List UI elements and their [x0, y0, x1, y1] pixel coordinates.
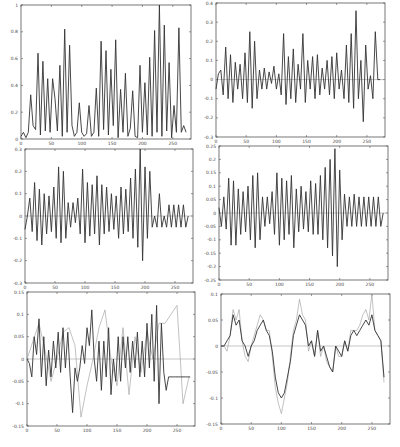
x-tick-label: 100: [81, 285, 90, 290]
figure-canvas: 05010015020025000.20.40.60.8105010015020…: [0, 0, 400, 447]
x-tick-label: 0: [218, 282, 221, 287]
y-tick-label: 0.1: [211, 292, 218, 297]
y-tick-label: 0: [213, 211, 216, 216]
y-tick-label: 0.2: [15, 169, 22, 174]
y-tick-label: 0.1: [206, 58, 213, 63]
x-tick-label: 250: [168, 141, 177, 146]
x-tick-label: 150: [307, 426, 316, 431]
y-tick-label: 0.8: [11, 29, 18, 34]
panel-bottom-right: 050100150200250-0.15-0.1-0.0500.050.1: [206, 292, 390, 432]
x-tick-label: 50: [48, 141, 54, 146]
y-tick-label: 0: [210, 77, 213, 82]
y-tick-label: 0: [19, 214, 22, 219]
y-tick-label: -0.2: [207, 264, 216, 269]
panel-top-right: 050100150200250-0.3-0.2-0.100.10.20.30.4: [204, 1, 385, 145]
x-tick-label: 50: [243, 139, 249, 144]
series-signal-line: [25, 149, 188, 261]
y-tick-label: 0.3: [206, 20, 213, 25]
y-tick-label: 0.05: [14, 334, 24, 339]
y-tick-label: -0.05: [206, 370, 218, 375]
y-tick-label: -0.3: [204, 135, 213, 140]
y-tick-label: -0.15: [206, 422, 218, 427]
x-tick-label: 100: [83, 428, 92, 433]
x-tick-label: 200: [335, 282, 344, 287]
x-tick-label: 0: [26, 428, 29, 433]
x-tick-label: 0: [20, 141, 23, 146]
y-tick-label: -0.15: [204, 251, 216, 256]
y-tick-label: 0.05: [208, 318, 218, 323]
y-tick-label: 0.1: [209, 184, 216, 189]
panel-top-left: 05010015020025000.20.40.60.81: [11, 3, 191, 147]
y-tick-label: 0.1: [17, 312, 24, 317]
y-tick-label: 0.4: [11, 83, 18, 88]
y-tick-label: 0.15: [14, 290, 24, 295]
y-tick-label: 0.2: [209, 157, 216, 162]
y-tick-label: 0.3: [15, 147, 22, 152]
x-tick-label: 100: [77, 141, 86, 146]
y-tick-label: -0.25: [204, 278, 216, 283]
y-tick-label: 0.15: [206, 170, 216, 175]
panel-middle-right: 050100150200250-0.25-0.2-0.15-0.1-0.0500…: [204, 144, 388, 288]
y-tick-label: 0.2: [206, 39, 213, 44]
y-tick-label: -0.1: [209, 396, 218, 401]
x-tick-label: 250: [171, 285, 180, 290]
y-tick-label: 0: [21, 357, 24, 362]
x-tick-label: 200: [337, 426, 346, 431]
y-tick-label: -0.05: [12, 379, 24, 384]
x-tick-label: 150: [111, 285, 120, 290]
x-tick-label: 0: [220, 426, 223, 431]
x-tick-label: 150: [113, 428, 122, 433]
y-tick-label: 0: [215, 344, 218, 349]
x-tick-label: 50: [248, 426, 254, 431]
x-tick-label: 100: [272, 139, 281, 144]
y-tick-label: 0.2: [11, 110, 18, 115]
x-tick-label: 50: [246, 282, 252, 287]
series-signal-line: [221, 315, 384, 398]
x-tick-label: 250: [173, 428, 182, 433]
x-tick-label: 150: [302, 139, 311, 144]
y-tick-label: -0.2: [13, 258, 22, 263]
series-signal-line: [219, 149, 383, 267]
y-tick-label: -0.1: [13, 236, 22, 241]
panel-middle-left: 050100150200250-0.3-0.2-0.100.10.20.3: [13, 147, 193, 291]
y-tick-label: 0.25: [206, 144, 216, 149]
series-reference-line: [27, 305, 189, 417]
y-tick-label: -0.05: [204, 224, 216, 229]
x-tick-label: 200: [138, 141, 147, 146]
series-signal-line: [21, 5, 186, 138]
x-tick-label: 100: [277, 426, 286, 431]
y-tick-label: -0.3: [13, 281, 22, 286]
x-tick-label: 150: [305, 282, 314, 287]
series-reference-line: [221, 294, 384, 414]
x-tick-label: 0: [24, 285, 27, 290]
x-tick-label: 100: [275, 282, 284, 287]
series-signal-line: [216, 11, 380, 122]
y-tick-label: 0: [15, 137, 18, 142]
x-tick-label: 250: [368, 426, 377, 431]
x-tick-label: 200: [141, 285, 150, 290]
y-tick-label: 0.4: [206, 1, 213, 6]
y-tick-label: 0.6: [11, 56, 18, 61]
y-tick-label: -0.15: [12, 424, 24, 429]
x-tick-label: 150: [108, 141, 117, 146]
y-tick-label: 1: [15, 3, 18, 8]
y-tick-label: 0.05: [206, 197, 216, 202]
x-tick-label: 50: [52, 285, 58, 290]
x-tick-label: 200: [332, 139, 341, 144]
x-tick-label: 50: [54, 428, 60, 433]
y-tick-label: -0.2: [204, 115, 213, 120]
y-tick-label: 0.1: [15, 191, 22, 196]
x-tick-label: 250: [366, 282, 375, 287]
y-tick-label: -0.1: [15, 401, 24, 406]
plot-frame: [216, 3, 385, 137]
x-tick-label: 200: [143, 428, 152, 433]
y-tick-label: -0.1: [204, 96, 213, 101]
panel-bottom-left: 050100150200250-0.15-0.1-0.0500.050.10.1…: [12, 290, 195, 434]
x-tick-label: 250: [363, 139, 372, 144]
y-tick-label: -0.1: [207, 237, 216, 242]
